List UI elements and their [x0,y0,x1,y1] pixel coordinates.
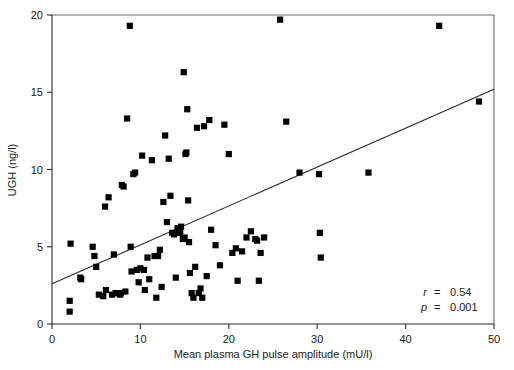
y-axis-ticks [47,15,52,324]
data-point-marker [162,132,168,138]
data-point-marker [103,287,109,293]
y-axis: 05101520 UGH (ng/l) [6,9,52,330]
data-point-marker [132,169,138,175]
data-point-marker [127,23,133,29]
data-point-marker [67,309,73,315]
correlation-symbol: r [423,286,428,298]
data-point-marker [201,123,207,129]
data-point-marker [199,295,205,301]
data-point-marker [100,293,106,299]
data-point-marker [78,276,84,282]
data-point-marker [239,248,245,254]
data-point-marker [204,273,210,279]
data-point-marker [243,234,249,240]
data-point-marker [258,250,264,256]
data-point-marker [248,228,254,234]
x-tick-label: 0 [49,333,55,345]
data-point-marker [153,295,159,301]
data-point-marker [142,287,148,293]
data-point-marker [167,193,173,199]
data-point-marker [105,194,111,200]
data-point-marker [155,253,161,259]
data-point-marker [102,203,108,209]
data-point-marker [476,98,482,104]
data-point-marker [144,254,150,260]
correlation-equals: = [434,286,440,298]
x-tick-label: 40 [399,333,411,345]
data-point-marker [149,157,155,163]
data-point-marker [277,17,283,23]
data-point-marker [128,268,134,274]
data-point-marker [164,219,170,225]
x-tick-label: 30 [311,333,323,345]
x-axis: 01020304050 Mean plasma GH pulse amplitu… [49,324,500,360]
data-point-marker [157,247,163,253]
x-axis-title: Mean plasma GH pulse amplitude (mU/l) [174,348,373,360]
data-point-marker [190,295,196,301]
pvalue-symbol: p [420,301,427,313]
data-point-marker [124,115,130,121]
data-point-marker [159,284,165,290]
data-point-marker [187,270,193,276]
data-point-marker [283,119,289,125]
data-point-marker [296,169,302,175]
data-point-marker [208,227,214,233]
data-point-marker [67,298,73,304]
data-point-marker [217,262,223,268]
data-point-marker [111,251,117,257]
data-point-marker [318,254,324,260]
y-axis-title: UGH (ng/l) [6,144,18,197]
scatter-plot-figure: 05101520 UGH (ng/l) 01020304050 Mean pla… [0,0,514,370]
data-point-marker [121,183,127,189]
x-tick-label: 50 [488,333,500,345]
data-point-marker [185,197,191,203]
data-point-marker [166,156,172,162]
data-point-marker [183,149,189,155]
data-point-marker [212,242,218,248]
data-point-marker [192,264,198,270]
data-point-marker [146,276,152,282]
plot-frame [52,15,494,324]
data-point-marker [93,264,99,270]
x-tick-label: 10 [134,333,146,345]
data-point-marker [317,230,323,236]
data-point-marker [122,288,128,294]
x-axis-ticks [52,324,494,329]
statistics-annotation: r = 0.54 p = 0.001 [420,286,478,313]
data-point-marker [173,275,179,281]
y-tick-label: 5 [37,241,43,253]
y-tick-label: 10 [31,164,43,176]
data-point-marker [160,199,166,205]
data-point-marker [181,69,187,75]
correlation-value: 0.54 [450,286,471,298]
data-point-marker [256,278,262,284]
data-point-marker [67,241,73,247]
data-point-marker [171,231,177,237]
pvalue-equals: = [434,301,440,313]
data-point-marker [136,279,142,285]
data-point-marker [178,224,184,230]
y-tick-label: 20 [31,9,43,21]
data-point-series [67,17,482,315]
data-point-marker [221,122,227,128]
data-point-marker [194,125,200,131]
data-point-marker [235,278,241,284]
data-point-marker [261,234,267,240]
data-point-marker [206,117,212,123]
data-point-marker [226,151,232,157]
data-point-marker [91,253,97,259]
data-point-marker [128,244,134,250]
data-point-marker [197,285,203,291]
y-tick-label: 0 [37,318,43,330]
data-point-marker [184,106,190,112]
data-point-marker [90,244,96,250]
regression-trend-line [52,89,494,284]
data-point-marker [233,245,239,251]
data-point-marker [316,171,322,177]
data-point-marker [186,239,192,245]
pvalue-value: 0.001 [450,301,478,313]
data-point-marker [365,169,371,175]
data-point-marker [139,153,145,159]
y-axis-tick-labels: 05101520 [31,9,43,330]
x-tick-label: 20 [223,333,235,345]
